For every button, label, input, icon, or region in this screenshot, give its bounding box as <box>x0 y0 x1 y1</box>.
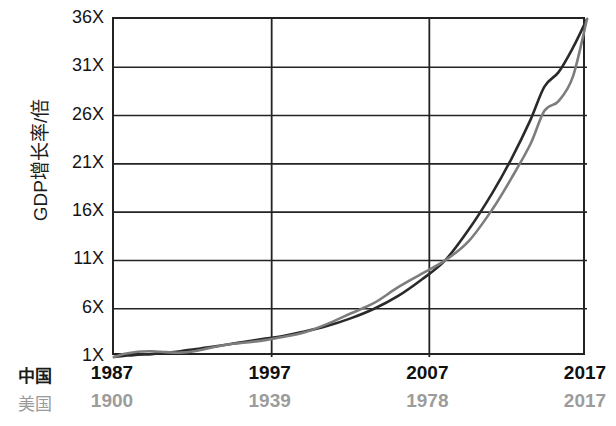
y-axis-tick-6x: 6X <box>52 296 104 317</box>
plot-area <box>112 17 585 355</box>
chart-page: GDP增长率/倍 36X31X26X21X16X11X6X1X 中国 19871… <box>0 0 616 426</box>
x-axis-tick-china-2007: 2007 <box>406 362 448 384</box>
y-axis-tick-21x: 21X <box>52 151 104 172</box>
x-axis-tick-china-1987: 1987 <box>91 362 133 384</box>
x-axis-tick-usa-1900: 1900 <box>91 390 133 412</box>
x-axis-row-label-china: 中国 <box>18 362 102 387</box>
series-lines <box>114 19 587 357</box>
x-axis-tick-usa-1939: 1939 <box>249 390 291 412</box>
y-axis-tick-11x: 11X <box>52 248 104 269</box>
x-axis-row-usa: 美国 1900193919782017 <box>0 390 616 414</box>
series-line-usa <box>114 19 587 357</box>
series-line-china <box>114 19 587 357</box>
x-axis-row-china: 中国 1987199720072017 <box>0 362 616 386</box>
gridlines <box>114 19 587 357</box>
x-axis-tick-usa-1978: 1978 <box>406 390 448 412</box>
y-axis-tick-31x: 31X <box>52 55 104 76</box>
y-axis-tick-36x: 36X <box>52 7 104 28</box>
y-axis-tick-26x: 26X <box>52 103 104 124</box>
y-axis-tick-16x: 16X <box>52 200 104 221</box>
x-axis-tick-china-2017: 2017 <box>564 362 606 384</box>
x-axis-tick-china-1997: 1997 <box>249 362 291 384</box>
x-axis-row-label-usa: 美国 <box>18 390 102 415</box>
x-axis-tick-usa-2017: 2017 <box>564 390 606 412</box>
chart-canvas <box>112 17 589 359</box>
